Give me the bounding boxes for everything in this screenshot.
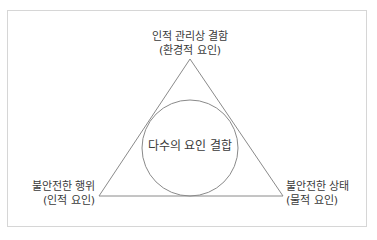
center-label: 다수의 요인 결합 xyxy=(140,139,240,153)
left-label-line2: (인적 요인) xyxy=(20,194,95,208)
right-label-line2: (물적 요인) xyxy=(286,194,366,208)
top-label: 인적 관리상 결함 (환경적 요인) xyxy=(130,30,250,58)
left-label: 불안전한 행위 (인적 요인) xyxy=(20,180,95,208)
triangle-shape xyxy=(99,59,283,196)
top-label-line1: 인적 관리상 결함 xyxy=(130,30,250,44)
top-label-line2: (환경적 요인) xyxy=(130,44,250,58)
right-label: 불안전한 상태 (물적 요인) xyxy=(286,180,366,208)
right-label-line1: 불안전한 상태 xyxy=(286,180,366,194)
left-label-line1: 불안전한 행위 xyxy=(20,180,95,194)
